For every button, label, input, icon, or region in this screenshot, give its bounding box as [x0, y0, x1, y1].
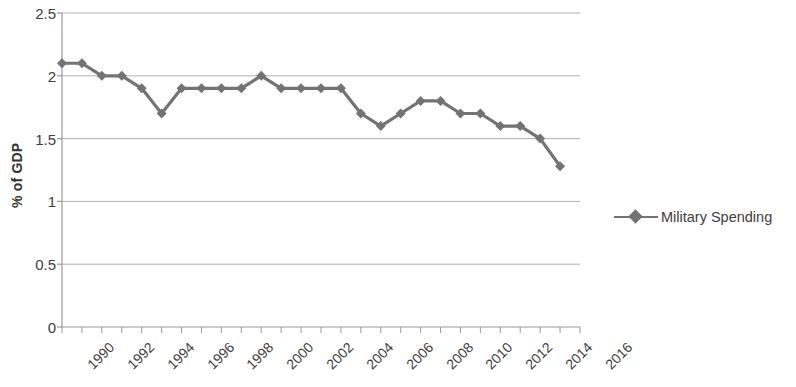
chart-container: % of GDP 00.511.522.5 199019921994199619…: [0, 0, 796, 387]
plot-area: [0, 0, 796, 387]
data-point-marker: [316, 83, 326, 93]
legend-label-military-spending: Military Spending: [658, 209, 772, 225]
data-point-marker: [216, 83, 226, 93]
chart-legend: Military Spending: [614, 206, 772, 228]
data-point-marker: [57, 58, 67, 68]
data-point-marker: [296, 83, 306, 93]
series-line-military-spending: [62, 63, 560, 166]
legend-marker-military-spending: [614, 210, 658, 224]
data-point-marker: [196, 83, 206, 93]
